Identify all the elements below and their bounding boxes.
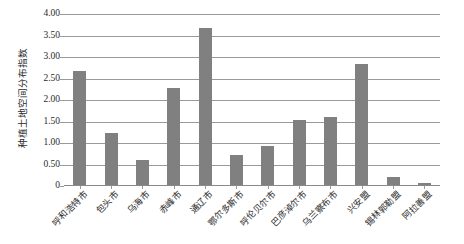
bar [73,71,86,185]
x-axis-category-label: 兴安盟 [346,190,371,215]
bar-chart: 种植土地空间分布指数 4.003.503.002.502.001.501.000… [0,0,464,244]
x-axis-category-label: 呼和浩特市 [51,190,89,228]
x-axis-category-label: 阿拉善盟 [402,190,434,222]
y-axis-tick-label: 1.50 [43,117,60,127]
bar [387,177,400,185]
x-axis-category-label: 乌海市 [126,190,151,215]
bars-group [64,14,440,186]
bar [136,160,149,185]
bar [261,146,274,185]
plot-area [64,14,440,186]
x-axis-category-labels: 呼和浩特市包头市乌海市赤峰市通辽市鄂尔多斯市呼伦贝尔市巴彦淖尔市乌兰察布市兴安盟… [64,186,440,244]
x-axis-category-label: 通辽市 [189,190,214,215]
bar [324,117,337,185]
bar [167,88,180,185]
y-axis-tick-label: 4.00 [43,9,60,19]
x-axis-category-label: 包头市 [95,190,120,215]
y-axis-title-text: 种植土地空间分布指数 [19,48,29,148]
y-axis-tick-label: 3.50 [43,31,60,41]
y-axis-tick-label: 3.00 [43,52,60,62]
y-axis-tick-label: 1.00 [43,138,60,148]
y-axis-tick-label: 2.00 [43,95,60,105]
y-axis-tick-label: 0.50 [43,160,60,170]
bar [105,133,118,185]
bar [293,120,306,185]
y-axis-tick-label: 2.50 [43,74,60,84]
x-axis-category-label: 赤峰市 [158,190,183,215]
bar [230,155,243,185]
bar [355,64,368,185]
y-axis-tick-labels: 4.003.503.002.502.001.501.000.500 [30,14,60,186]
bar [199,28,212,185]
